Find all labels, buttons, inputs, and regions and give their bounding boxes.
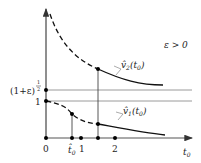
y-label-lower: 1 [35, 97, 41, 107]
x-label-t-hat: t̂0 [68, 143, 76, 156]
tick-0 [44, 136, 48, 140]
x-label-t-hat-sub: 0 [72, 149, 76, 156]
curve-v1-arg-close: ) [142, 106, 147, 116]
curve-v1-label: v̂1(t0) [123, 106, 147, 117]
curve-v2-arg-close: ) [140, 60, 145, 70]
condition-label: ε > 0 [164, 40, 188, 50]
leader-v2 [114, 66, 121, 75]
x-label-two: 2 [112, 144, 118, 154]
point-v1-t-hat [70, 112, 74, 116]
point-y-upper [44, 88, 48, 92]
tick-t-hat [70, 136, 74, 140]
tick-t1 [96, 136, 100, 140]
curve-v1-solid [98, 124, 165, 135]
leader-v1 [116, 112, 123, 120]
curve-v2-solid [98, 69, 163, 85]
x-label-one: 1 [79, 144, 85, 154]
x-axis-label: t0 [183, 147, 191, 158]
point-v1 [96, 122, 100, 126]
diagram-canvas: ε > 0 v̂2(t0) v̂1(t0) (1+ε) 1 2 1 0 t̂0 … [0, 0, 201, 163]
curve-v2-dashed [50, 14, 98, 69]
curve-v2-label: v̂2(t0) [121, 60, 145, 71]
tick-1 [79, 136, 83, 140]
point-y-lower [44, 99, 48, 103]
y-label-upper: (1+ε) [10, 86, 35, 96]
y-label-upper-exp-den: 2 [37, 86, 40, 92]
x-axis-label-sub: 0 [187, 151, 191, 158]
x-label-origin: 0 [43, 144, 49, 154]
point-v2 [96, 67, 100, 71]
y-label-upper-exp-num: 1 [37, 79, 40, 85]
tick-2 [113, 136, 117, 140]
